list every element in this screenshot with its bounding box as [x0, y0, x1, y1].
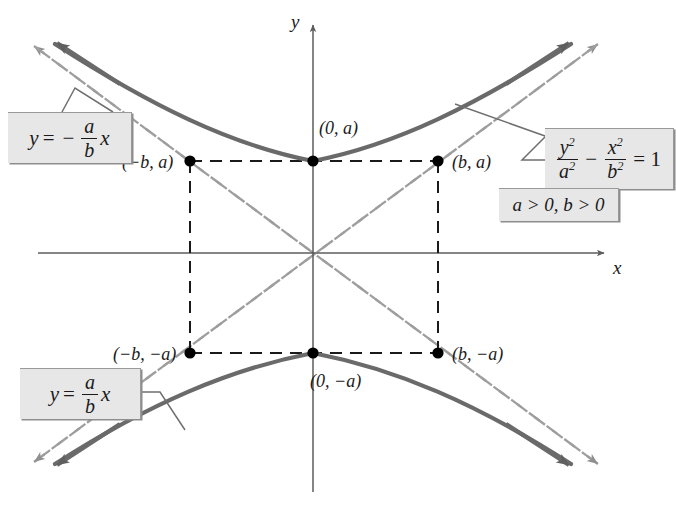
point-corner-top-right [432, 155, 443, 166]
equation-den2-exponent: 2 [617, 159, 623, 173]
asymptote-negative-variable: x [100, 126, 109, 151]
equation-num1-exponent: 2 [569, 135, 575, 149]
point-label-vertex-top: (0, a) [319, 119, 358, 137]
callout-conditions: a > 0, b > 0 [499, 188, 619, 221]
figure-canvas [0, 0, 676, 506]
leader-line-equation [522, 135, 547, 160]
asymptote-positive-variable: x [101, 382, 110, 407]
equation-second-numerator: x2 [605, 137, 626, 160]
point-corner-bottom-left [184, 347, 195, 358]
point-label-corner-top-right: (b, a) [452, 153, 491, 171]
asymptote-negative-numerator: a [81, 116, 97, 139]
hyperbola-lower-branch-arrow-right [506, 424, 569, 465]
asymptote-positive-denominator: b [82, 395, 98, 417]
equation-num1: y [560, 136, 569, 158]
hyperbola-figure: y x (−b, a) (0, a) (b, a) (−b, −a) (0, −… [0, 0, 676, 506]
equation-first-numerator: y2 [557, 137, 578, 160]
equation-den2: b [607, 160, 617, 182]
callout-equation: y2 a2 − x2 b2 = 1 [545, 128, 674, 189]
point-label-corner-bottom-left: (−b, −a) [113, 345, 176, 363]
asymptote-positive-numerator: a [82, 372, 98, 395]
equation-second-fraction: x2 b2 [604, 137, 626, 182]
point-label-vertex-bottom: (0, −a) [310, 372, 361, 390]
hyperbola-lower-branch-arrow-left [57, 424, 120, 465]
x-axis-label: x [613, 258, 621, 277]
asymptote-positive-expression: y = a b x [50, 372, 111, 417]
equation-num2: x [608, 136, 617, 158]
asymptote-negative-equals: = [39, 126, 59, 151]
hyperbola-upper-branch-arrow-right [506, 43, 569, 84]
asymptote-negative-denominator: b [81, 139, 97, 161]
point-corner-top-left [184, 155, 195, 166]
conditions-text: a > 0, b > 0 [512, 194, 604, 216]
equation-expression: y2 a2 − x2 b2 = 1 [553, 137, 665, 182]
equation-num2-exponent: 2 [617, 135, 623, 149]
asymptote-negative-expression: y = − a b x [29, 116, 109, 161]
y-axis-label: y [291, 12, 299, 31]
equation-den1-exponent: 2 [569, 159, 575, 173]
equation-first-fraction: y2 a2 [556, 137, 578, 182]
equation-equals-one: = 1 [629, 147, 665, 172]
asymptote-positive-lhs: y [50, 382, 59, 407]
equation-operator: − [581, 147, 601, 172]
point-vertex-bottom [307, 347, 318, 358]
leader-line-equation-pointer [455, 104, 545, 136]
asymptote-positive-fraction: a b [82, 372, 98, 417]
point-label-corner-bottom-right: (b, −a) [452, 345, 503, 363]
asymptote-negative-fraction: a b [81, 116, 97, 161]
callout-asymptote-negative: y = − a b x [8, 112, 132, 163]
asymptote-positive-equals: = [59, 382, 79, 407]
point-vertex-top [307, 155, 318, 166]
equation-den1: a [559, 160, 569, 182]
hyperbola-upper-branch-arrow-left [57, 43, 120, 84]
callout-asymptote-positive: y = a b x [20, 368, 141, 419]
equation-second-denominator: b2 [604, 160, 626, 182]
asymptote-negative-lhs: y [29, 126, 38, 151]
equation-first-denominator: a2 [556, 160, 578, 182]
asymptote-negative-sign: − [59, 126, 79, 151]
point-corner-bottom-right [432, 347, 443, 358]
